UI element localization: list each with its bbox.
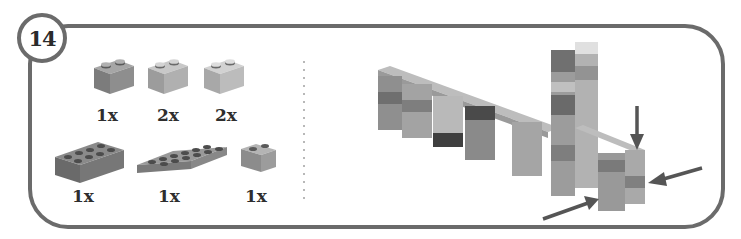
quantity-label: 2x [215,105,237,125]
part-brick-1x2-a [94,59,134,94]
quantity-label: 1x [158,186,180,206]
instruction-step: 14 [0,0,741,239]
part-brick-1x2-d [241,144,276,172]
part-brick-1x2-b [148,59,188,94]
part-brick-1x2-c [204,59,244,94]
quantity-label: 1x [245,186,267,206]
part-plate-2x6 [137,145,227,173]
arrow-down-icon [630,106,644,150]
quantity-label: 1x [96,105,118,125]
arrow-left-icon [648,168,702,186]
quantity-label: 2x [157,105,179,125]
quantity-label: 1x [72,186,94,206]
part-brick-2x4 [55,142,124,183]
dotted-divider [303,58,305,200]
assembly-model [378,42,645,211]
arrow-up-right-icon [543,196,599,219]
